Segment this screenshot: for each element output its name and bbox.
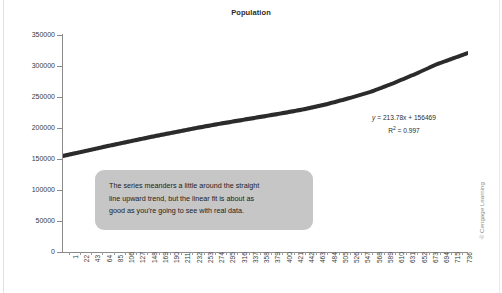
callout-line-2: line upward trend, but the linear fit is… <box>109 193 305 206</box>
x-axis-tick-label: 610 <box>398 255 406 263</box>
x-axis-tick-label: 169 <box>162 255 170 263</box>
x-axis-tick-label: 568 <box>376 255 384 263</box>
x-axis-tick-label: 358 <box>263 255 271 263</box>
x-axis-tick-label: 526 <box>353 255 361 263</box>
y-axis-tick-label-text: 0 <box>3 248 55 255</box>
chart-title: Population <box>0 8 502 17</box>
x-axis-tick-label: 337 <box>252 255 260 263</box>
callout-line-1: The series meanders a little around the … <box>109 180 305 193</box>
equation-body: = 213.78x + 156469 <box>375 114 436 121</box>
x-axis-tick-label: 463 <box>319 255 327 263</box>
callout-text: The series meanders a little around the … <box>109 180 305 218</box>
y-axis-tick-mark <box>57 159 62 160</box>
x-axis-tick-mark <box>204 252 205 255</box>
x-axis-tick-label: 400 <box>286 255 294 263</box>
y-axis-tick-label: 200000 <box>0 124 55 132</box>
y-axis-tick-label-text: 150000 <box>3 155 55 162</box>
y-axis-tick-label-text: 50000 <box>3 217 55 224</box>
x-axis-tick-mark <box>125 252 126 255</box>
y-axis-tick-label: 350000 <box>0 31 55 39</box>
y-axis-tick-mark <box>57 221 62 222</box>
x-axis-tick-label: 274 <box>218 255 226 263</box>
x-axis-tick-mark <box>215 252 216 255</box>
x-axis-tick-label: 232 <box>196 255 204 263</box>
y-axis-tick-label: 300000 <box>0 62 55 70</box>
x-axis-tick-label: 379 <box>274 255 282 263</box>
x-axis-tick-mark <box>361 252 362 255</box>
x-axis-tick-mark <box>406 252 407 255</box>
y-axis-tick-mark <box>57 35 62 36</box>
x-axis-tick-label: 211 <box>184 255 192 263</box>
y-axis-tick-mark <box>57 97 62 98</box>
x-axis-tick-mark <box>462 252 463 255</box>
y-axis-tick-mark <box>57 190 62 191</box>
population-series-band <box>63 51 468 158</box>
x-axis-tick-mark <box>237 252 238 255</box>
x-axis-tick-mark <box>260 252 261 255</box>
x-axis-tick-mark <box>181 252 182 255</box>
x-axis-tick-label: 442 <box>308 255 316 263</box>
x-axis-tick-mark <box>271 252 272 255</box>
x-axis-tick-mark <box>159 252 160 255</box>
y-axis-tick-label: 150000 <box>0 155 55 163</box>
x-axis-tick-mark <box>282 252 283 255</box>
y-axis-tick-mark <box>57 252 62 253</box>
copyright-notice: © Cengage Learning <box>478 182 485 239</box>
x-axis-tick-label: 316 <box>241 255 249 263</box>
x-axis-tick-label: 127 <box>139 255 147 263</box>
y-axis-tick-mark <box>57 66 62 67</box>
x-axis-tick-label: 652 <box>421 255 429 263</box>
x-axis-tick-mark <box>440 252 441 255</box>
x-axis-tick-label: 64 <box>106 255 114 263</box>
x-axis-tick-label: 421 <box>297 255 305 263</box>
x-axis-tick-mark <box>395 252 396 255</box>
x-axis-tick-label: 715 <box>454 255 462 263</box>
x-axis-tick-label: 1 <box>72 255 80 263</box>
x-axis-tick-label: 295 <box>229 255 237 263</box>
x-axis-tick-mark <box>294 252 295 255</box>
x-axis-tick-mark <box>372 252 373 255</box>
x-axis-tick-mark <box>226 252 227 255</box>
chart-figure: Population 05000010000015000020000025000… <box>0 0 502 293</box>
trendline-equation-line: y = 213.78x + 156469 <box>340 112 468 123</box>
x-axis-tick-mark <box>339 252 340 255</box>
x-axis-tick-mark <box>417 252 418 255</box>
x-axis-tick-mark <box>102 252 103 255</box>
x-axis-tick-mark <box>249 252 250 255</box>
x-axis-tick-label: 253 <box>207 255 215 263</box>
callout-box: The series meanders a little around the … <box>95 170 313 230</box>
y-axis-tick-label: 50000 <box>0 217 55 225</box>
x-axis-tick-label: 190 <box>173 255 181 263</box>
x-axis-tick-mark <box>136 252 137 255</box>
x-axis-tick-label: 22 <box>83 255 91 263</box>
rsquared-value: = 0.997 <box>396 127 420 134</box>
x-axis-tick-label: 106 <box>128 255 136 263</box>
x-axis-tick-label: 631 <box>409 255 417 263</box>
x-axis-tick-label: 484 <box>331 255 339 263</box>
x-axis-tick-mark <box>91 252 92 255</box>
callout-line-3: good as you’re going to see with real da… <box>109 205 305 218</box>
y-axis-tick-label: 0 <box>0 248 55 256</box>
x-axis-tick-mark <box>114 252 115 255</box>
x-axis-tick-label: 589 <box>387 255 395 263</box>
x-axis-tick-label: 547 <box>364 255 372 263</box>
x-axis-tick-mark <box>170 252 171 255</box>
x-axis-tick-label: 673 <box>432 255 440 263</box>
figure-frame-right-edge <box>499 0 500 293</box>
y-axis-tick-mark <box>57 128 62 129</box>
trendline-equation: y = 213.78x + 156469 R2 = 0.997 <box>340 112 468 136</box>
x-axis-tick-mark <box>316 252 317 255</box>
x-axis-tick-mark <box>327 252 328 255</box>
x-axis-tick-label: 736 <box>466 255 474 263</box>
x-axis-tick-label: 148 <box>151 255 159 263</box>
x-axis-tick-mark <box>451 252 452 255</box>
x-axis-tick-mark <box>80 252 81 255</box>
x-axis-tick-mark <box>192 252 193 255</box>
x-axis-tick-mark <box>429 252 430 255</box>
x-axis-tick-mark <box>305 252 306 255</box>
x-axis-tick-label: 43 <box>94 255 102 263</box>
y-axis-tick-label-text: 200000 <box>3 124 55 131</box>
x-axis-tick-mark <box>147 252 148 255</box>
trendline-rsquared-line: R2 = 0.997 <box>340 123 468 136</box>
y-axis-tick-label-text: 350000 <box>3 31 55 38</box>
